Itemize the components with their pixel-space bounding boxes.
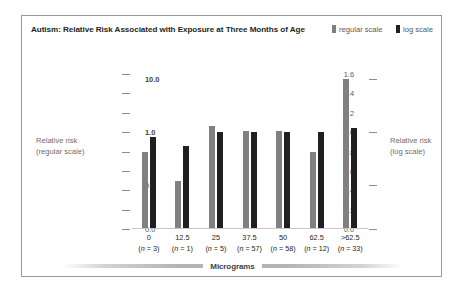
legend-item-log-scale[interactable]: log scale [396,25,433,34]
chart-figure: Autism: Relative Risk Associated with Ex… [21,15,442,277]
x-axis-label-cell: 0(n = 3) [132,232,166,258]
bar-group [199,74,233,229]
y-axis-right-title-line1: Relative risk [390,136,442,147]
x-axis-sample-size-label: (n = 33) [333,243,367,254]
legend-label-regular-scale: regular scale [339,25,382,34]
x-axis-sample-size-label: (n = 57) [233,243,267,254]
bar[interactable] [243,131,249,229]
bar[interactable] [310,152,316,230]
x-axis-sample-size-label: (n = 58) [266,243,300,254]
bar-swatch-icon [396,25,400,33]
x-axis-label-cell: 62.5(n = 12) [300,232,334,258]
bar[interactable] [217,132,223,229]
x-axis-dose-label: 12.5 [166,232,200,243]
x-axis-dose-label: >62.5 [333,232,367,243]
x-axis-label-cell: 12.5(n = 1) [166,232,200,258]
bar[interactable] [284,132,290,229]
y-axis-left-title-line2: (regular scale) [36,147,118,158]
chart-legend: regular scale log scale [332,25,433,34]
x-axis-label-cell: 25(n = 5) [199,232,233,258]
x-axis-labels: 0(n = 3)12.5(n = 1)25(n = 5)37.5(n = 57)… [132,232,367,258]
tick-mark-icon [122,210,130,211]
bar[interactable] [343,79,349,229]
bar-group [266,74,300,229]
bar-series-container [132,74,367,229]
tick-mark-icon [369,229,377,230]
tick-mark-icon [122,113,130,114]
bar-group [300,74,334,229]
x-axis-dose-label: 37.5 [233,232,267,243]
tick-mark-icon [122,171,130,172]
tick-mark-icon [122,152,130,153]
bar-group [233,74,267,229]
x-axis-label-cell: 37.5(n = 57) [233,232,267,258]
x-axis-label-cell: 50(n = 58) [266,232,300,258]
y-axis-right-title: Relative risk (log scale) [390,136,442,157]
tick-mark-icon [122,132,130,133]
tick-mark-icon [122,93,130,94]
y-axis-right-title-line2: (log scale) [390,147,442,158]
tick-mark-icon [369,185,377,186]
bar-group [166,74,200,229]
bar-group [333,74,367,229]
bar[interactable] [183,146,189,229]
bar[interactable] [175,181,181,229]
bar[interactable] [251,132,257,229]
bar[interactable] [351,128,357,229]
tick-mark-icon [369,79,377,80]
bar-swatch-icon [332,25,336,33]
bar[interactable] [142,152,148,230]
x-axis-title-container: Micrograms [62,259,403,273]
x-axis-dose-label: 62.5 [300,232,334,243]
tick-mark-icon [122,229,130,230]
bar[interactable] [209,126,215,229]
x-axis-sample-size-label: (n = 3) [132,243,166,254]
legend-label-log-scale: log scale [403,25,433,34]
x-axis-dose-label: 0 [132,232,166,243]
chart-header: Autism: Relative Risk Associated with Ex… [22,16,441,42]
page-title: Autism: Relative Risk Associated with Ex… [31,25,305,34]
x-axis-sample-size-label: (n = 5) [199,243,233,254]
x-axis-sample-size-label: (n = 12) [300,243,334,254]
x-axis-dose-label: 50 [266,232,300,243]
plot-area: 1.61.41.21.00.80.60.40.20.0 10.01.00.10.… [132,74,367,229]
tick-mark-icon [369,132,377,133]
x-axis-sample-size-label: (n = 1) [166,243,200,254]
x-axis-baseline [132,228,368,229]
y-axis-left-title: Relative risk (regular scale) [36,136,118,157]
tick-mark-icon [122,74,130,75]
bar[interactable] [318,132,324,229]
x-axis-dose-label: 25 [199,232,233,243]
bar[interactable] [150,137,156,229]
bar-group [132,74,166,229]
y-axis-left-title-line1: Relative risk [36,136,118,147]
tick-mark-icon [122,190,130,191]
x-axis-title: Micrograms [203,262,261,271]
bar[interactable] [276,131,282,229]
x-axis-label-cell: >62.5(n = 33) [333,232,367,258]
legend-item-regular-scale[interactable]: regular scale [332,25,383,34]
